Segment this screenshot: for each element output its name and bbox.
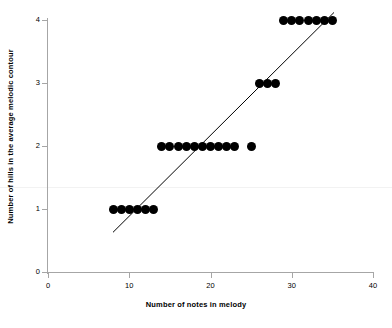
y-axis-tick	[42, 146, 47, 147]
x-axis-tick-label: 0	[38, 281, 58, 290]
y-axis-tick-label: 4	[26, 15, 40, 24]
data-point	[312, 16, 321, 25]
y-axis-tick-label: 1	[26, 204, 40, 213]
y-axis-line	[47, 18, 48, 274]
data-point	[109, 205, 118, 214]
data-point	[157, 142, 166, 151]
y-axis-tick-label: 2	[26, 141, 40, 150]
y-axis-tick	[42, 209, 47, 210]
x-axis-tick	[129, 273, 130, 278]
data-point	[141, 205, 150, 214]
data-point	[230, 142, 239, 151]
data-point	[165, 142, 174, 151]
data-point	[117, 205, 126, 214]
data-point	[263, 79, 272, 88]
scatter-chart: Number of hills in the average melodic c…	[0, 0, 392, 328]
data-point	[214, 142, 223, 151]
x-axis-tick-label: 20	[201, 281, 221, 290]
x-axis-tick-label: 10	[119, 281, 139, 290]
data-point	[125, 205, 134, 214]
x-axis-title: Number of notes in melody	[0, 300, 392, 309]
data-point	[133, 205, 142, 214]
y-axis-tick	[42, 83, 47, 84]
y-axis-title: Number of hills in the average melodic c…	[2, 0, 18, 272]
y-axis-tick	[42, 20, 47, 21]
data-point	[222, 142, 231, 151]
trend-line	[0, 0, 392, 328]
data-point	[247, 142, 256, 151]
y-axis-tick-label: 0	[26, 267, 40, 276]
data-point	[320, 16, 329, 25]
data-point	[198, 142, 207, 151]
data-point	[287, 16, 296, 25]
data-point	[271, 79, 280, 88]
data-point	[255, 79, 264, 88]
y-axis-tick	[42, 272, 47, 273]
data-point	[304, 16, 313, 25]
plot-area	[0, 0, 392, 328]
data-point	[206, 142, 215, 151]
y-axis-tick-label: 3	[26, 78, 40, 87]
y-axis-title-text: Number of hills in the average melodic c…	[6, 49, 15, 223]
data-point	[328, 16, 337, 25]
data-point	[174, 142, 183, 151]
x-axis-tick	[211, 273, 212, 278]
x-axis-tick-label: 30	[282, 281, 302, 290]
x-axis-tick	[292, 273, 293, 278]
data-point	[190, 142, 199, 151]
x-axis-tick	[373, 273, 374, 278]
data-point	[295, 16, 304, 25]
x-axis-tick-label: 40	[363, 281, 383, 290]
trend-line-segment	[113, 12, 334, 232]
data-point	[279, 16, 288, 25]
data-point	[149, 205, 158, 214]
x-axis-tick	[48, 273, 49, 278]
data-point	[182, 142, 191, 151]
scan-artifact-line	[0, 187, 392, 188]
